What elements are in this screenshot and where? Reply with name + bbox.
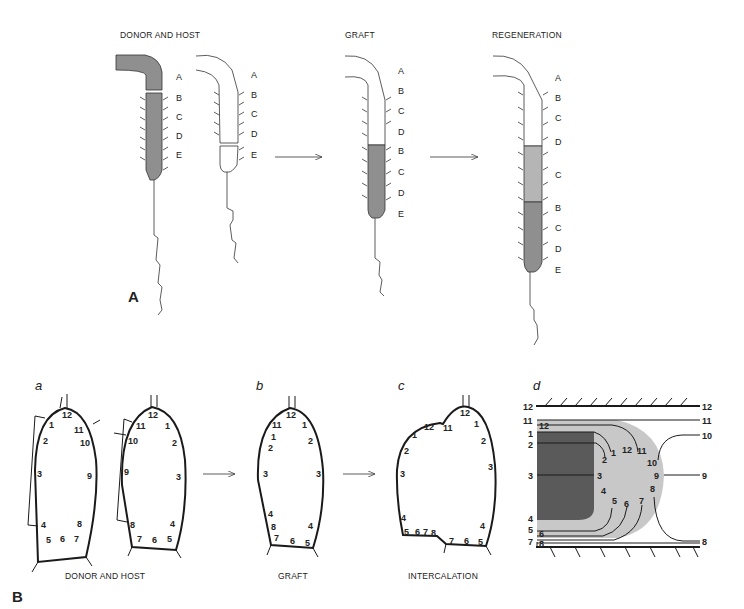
host-num: 5 bbox=[167, 534, 172, 544]
d-left-num: 7 bbox=[528, 537, 533, 547]
d-inner-num: 7 bbox=[639, 496, 644, 506]
host-seg-d: D bbox=[251, 129, 258, 139]
d-right-num: 12 bbox=[702, 402, 712, 412]
graft-seg-8: E bbox=[398, 209, 404, 219]
graft-seg-2: B bbox=[398, 86, 404, 96]
graft-num: 3 bbox=[316, 469, 321, 479]
d-inner-num: 2 bbox=[602, 455, 607, 465]
donor-num: 9 bbox=[87, 471, 92, 481]
d-left-num: 5 bbox=[528, 525, 533, 535]
host-seg-a: A bbox=[251, 70, 257, 80]
caption-donor-host: DONOR AND HOST bbox=[120, 30, 200, 40]
intercalation-num: 12 bbox=[460, 408, 470, 418]
sub-label-c: c bbox=[398, 378, 405, 393]
graft-num: 12 bbox=[286, 410, 296, 420]
d-left-num: 11 bbox=[523, 416, 533, 426]
graft-seg-4: D bbox=[398, 127, 405, 137]
donor-num: 1 bbox=[49, 420, 54, 430]
caption-a: DONOR AND HOST bbox=[65, 571, 145, 581]
d-left-num: 4 bbox=[528, 514, 533, 524]
d-left-num: 12 bbox=[523, 402, 533, 412]
host-num: 2 bbox=[172, 438, 177, 448]
graft-seg-3: C bbox=[398, 106, 405, 116]
graft-num: 5 bbox=[305, 538, 310, 548]
regen-seg-7: C bbox=[555, 223, 562, 233]
caption-c: INTERCALATION bbox=[408, 571, 478, 581]
host-seg-e: E bbox=[251, 150, 257, 160]
d-right-num: 8 bbox=[702, 537, 707, 547]
regen-seg-8: D bbox=[555, 244, 562, 254]
intercalation-num: 7 bbox=[449, 536, 454, 546]
intercalation-num: 2 bbox=[481, 436, 486, 446]
regen-seg-5: C bbox=[555, 170, 562, 180]
caption-graft: GRAFT bbox=[345, 30, 375, 40]
d-left-num: 3 bbox=[528, 471, 533, 481]
sub-label-d: d bbox=[533, 378, 541, 393]
intercalation-num: 1 bbox=[412, 430, 417, 440]
graft-num: 4 bbox=[268, 509, 273, 519]
intercalation-num: 3 bbox=[488, 462, 493, 472]
sub-a-donor: a 12 1 11 2 10 3 9 4 8 5 6 7 bbox=[28, 378, 100, 572]
graft-num: 1 bbox=[302, 420, 307, 430]
donor-num: 2 bbox=[43, 436, 48, 446]
d-left-num: 6 bbox=[539, 529, 544, 539]
donor-seg-e: E bbox=[176, 150, 182, 160]
sub-b-graft: b 12 11 1 1 2 2 3 3 4 8 4 7 6 5 GRAFT bbox=[256, 378, 323, 581]
d-inner-num: 9 bbox=[654, 471, 659, 481]
sub-c-intercalation: c 12 12 11 1 1 2 2 3 3 4 5 6 7 8 4 7 bbox=[397, 378, 496, 581]
host-num: 7 bbox=[137, 534, 142, 544]
donor-num: 11 bbox=[74, 425, 84, 435]
host-num: 4 bbox=[170, 519, 175, 529]
d-inner-num: 3 bbox=[597, 471, 602, 481]
graft-num: 7 bbox=[274, 533, 279, 543]
host-num: 1 bbox=[165, 421, 170, 431]
intercalation-num: 4 bbox=[480, 521, 485, 531]
host-seg-c: C bbox=[251, 109, 258, 119]
donor-leg: A B C D E bbox=[116, 55, 183, 315]
host-num: 3 bbox=[176, 472, 181, 482]
donor-num: 7 bbox=[74, 534, 79, 544]
donor-num: 5 bbox=[46, 535, 51, 545]
panel-b: B a 12 1 11 2 10 3 9 4 8 5 6 7 bbox=[12, 378, 712, 605]
intercalation-num: 4 bbox=[401, 513, 406, 523]
intercalation-num: 1 bbox=[474, 419, 479, 429]
regen-seg-1: A bbox=[555, 73, 561, 83]
graft-seg-5: B bbox=[398, 146, 404, 156]
graft-num: 3 bbox=[263, 469, 268, 479]
donor-num: 12 bbox=[62, 410, 72, 420]
d-right-num: 11 bbox=[702, 416, 712, 426]
d-right-num: 9 bbox=[702, 471, 707, 481]
d-inner-num: 1 bbox=[611, 448, 616, 458]
d-inner-num: 5 bbox=[612, 496, 617, 506]
host-seg-b: B bbox=[251, 90, 257, 100]
intercalation-num: 6 bbox=[464, 536, 469, 546]
graft-num: 1 bbox=[271, 432, 276, 442]
sub-label-b: b bbox=[256, 378, 263, 393]
panel-label-a: A bbox=[128, 288, 139, 305]
host-num: 6 bbox=[152, 535, 157, 545]
host-num: 12 bbox=[148, 410, 158, 420]
sub-label-a: a bbox=[35, 378, 42, 393]
host-num: 8 bbox=[130, 520, 135, 530]
intercalation-num: 12 bbox=[424, 422, 434, 432]
donor-seg-c: C bbox=[176, 112, 183, 122]
graft-num: 2 bbox=[308, 436, 313, 446]
donor-num: 6 bbox=[60, 534, 65, 544]
intercalation-num: 3 bbox=[400, 469, 405, 479]
regen-seg-9: E bbox=[555, 265, 561, 275]
d-right-num: 10 bbox=[702, 431, 712, 441]
intercalation-num: 6 bbox=[415, 527, 420, 537]
caption-b: GRAFT bbox=[278, 571, 308, 581]
panel-label-b: B bbox=[12, 588, 23, 605]
graft-num: 2 bbox=[268, 443, 273, 453]
host-num: 11 bbox=[136, 421, 146, 431]
regen-seg-4: D bbox=[555, 137, 562, 147]
d-left-num: 8 bbox=[539, 539, 544, 549]
regeneration-leg: A B C D C B C D E bbox=[493, 56, 562, 345]
regen-seg-2: B bbox=[555, 93, 561, 103]
graft-num: 8 bbox=[271, 522, 276, 532]
figure-canvas: DONOR AND HOST GRAFT REGENERATION A A B … bbox=[0, 0, 744, 609]
regen-seg-6: B bbox=[555, 203, 561, 213]
d-inner-num: 6 bbox=[624, 499, 629, 509]
caption-regeneration: REGENERATION bbox=[492, 30, 562, 40]
